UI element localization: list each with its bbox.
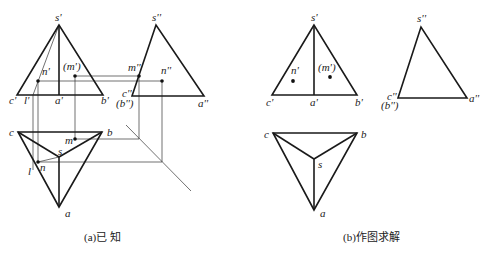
label-s-front: s' xyxy=(55,11,62,23)
label-s-side: s'' xyxy=(152,11,162,23)
front-view-b: s' c' a' b' n' (m') xyxy=(266,11,364,108)
panel-b: s' c' a' b' n' (m') s'' c'' (b'') a'' c … xyxy=(264,11,480,244)
label-s-front: s' xyxy=(311,11,318,23)
point-m-front xyxy=(328,75,332,79)
label-c-top: c xyxy=(9,126,14,138)
panel-a: s' c' l' a' b' n' (m') s'' c'' (b'') a''… xyxy=(9,11,209,244)
label-b-top: b xyxy=(361,128,367,140)
caption-a: (a)已 知 xyxy=(84,230,121,244)
label-b-front: b' xyxy=(355,96,364,108)
label-n-front: n' xyxy=(42,65,51,77)
label-a-top: a xyxy=(320,207,326,219)
label-l-top: l xyxy=(28,165,31,177)
label-a-front: a' xyxy=(55,94,64,106)
side-view-a: s'' c'' (b'') a'' m'' n'' xyxy=(116,11,209,110)
label-b-side: (b'') xyxy=(381,99,399,112)
top-view-a: c b m s l n a xyxy=(9,126,113,219)
projection-lines xyxy=(33,25,191,191)
label-n-side: n'' xyxy=(161,64,172,76)
caption-b: (b)作图求解 xyxy=(343,230,400,244)
point-n-front xyxy=(36,79,40,83)
label-a-front: a' xyxy=(310,96,319,108)
label-n-top: n xyxy=(40,161,46,173)
label-m-side: m'' xyxy=(128,61,141,73)
aux-line-s-l-front xyxy=(33,25,59,95)
label-b-front: b' xyxy=(101,94,110,106)
label-s-side: s'' xyxy=(417,12,427,24)
side-view-b: s'' c'' (b'') a'' xyxy=(381,12,480,112)
side-triangle xyxy=(398,27,467,98)
label-m-top: m xyxy=(65,134,73,146)
front-triangle xyxy=(17,25,103,95)
miter-line-45 xyxy=(126,125,191,191)
point-m-front xyxy=(73,74,77,78)
label-c-front: c' xyxy=(266,96,274,108)
label-a-side: a'' xyxy=(469,92,480,104)
point-m-top xyxy=(73,137,77,141)
label-n-front: n' xyxy=(291,64,300,76)
point-n-front xyxy=(291,79,295,83)
label-c-front: c' xyxy=(9,94,17,106)
front-view-a: s' c' l' a' b' n' (m') xyxy=(9,11,110,106)
point-n-side xyxy=(160,79,164,83)
label-c-top: c xyxy=(264,128,269,140)
label-m-front: (m') xyxy=(63,60,81,73)
top-triangle xyxy=(273,133,357,210)
label-m-front: (m') xyxy=(318,61,336,74)
label-l-front: l' xyxy=(24,94,30,106)
pyramid-projection-figure: s' c' l' a' b' n' (m') s'' c'' (b'') a''… xyxy=(0,0,489,255)
label-s-top: s xyxy=(58,145,62,157)
label-a-side: a'' xyxy=(198,97,209,109)
label-b-top: b xyxy=(107,126,113,138)
label-a-top: a xyxy=(65,207,71,219)
point-m-side xyxy=(137,74,141,78)
side-triangle xyxy=(132,25,204,96)
label-s-top: s xyxy=(318,158,322,170)
label-b-side: (b'') xyxy=(116,97,134,110)
top-view-b: c b s a xyxy=(264,128,367,219)
